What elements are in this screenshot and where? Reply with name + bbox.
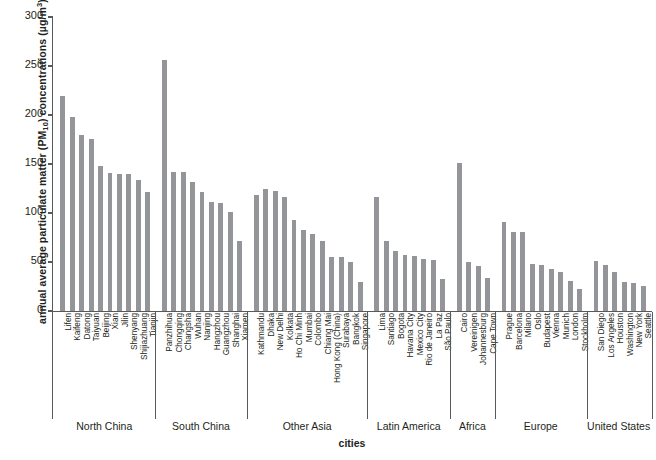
y-axis-tick-label: 300: [11, 9, 43, 21]
bar: [558, 272, 563, 311]
x-axis-category-label: Xiamen: [242, 313, 250, 341]
x-axis-category-label: Barcelona: [516, 313, 524, 350]
bar: [171, 172, 176, 311]
x-axis-category-label: Munich: [563, 313, 571, 339]
x-axis-category-label: Mumbai: [306, 313, 314, 342]
x-axis-category-label: Johannesburg: [480, 313, 488, 365]
group-separator: [367, 312, 368, 419]
bar: [89, 139, 94, 311]
bar: [502, 222, 507, 311]
x-axis-category-label: New York: [636, 313, 644, 348]
x-axis-category-label: New Delhi: [277, 313, 285, 350]
y-axis-title-sub: 10: [41, 122, 50, 131]
x-axis-category-labels: LifenKaifengDatongTaiyuanBeijingXianJili…: [52, 313, 652, 408]
group-separator: [587, 312, 588, 419]
x-axis-category-label: Oslo: [535, 313, 543, 330]
group-separator: [247, 312, 248, 419]
x-axis-category-label: Shenyang: [131, 313, 139, 350]
x-axis-category-label: London: [572, 313, 580, 340]
bar: [70, 117, 75, 311]
bar: [612, 272, 617, 311]
bar: [539, 265, 544, 311]
bar: [431, 260, 436, 311]
group-separator: [652, 312, 653, 419]
bar: [320, 241, 325, 311]
x-axis-category-label: Bogota: [398, 313, 406, 339]
x-axis-category-label: Surabaya: [343, 313, 351, 348]
bar: [254, 195, 259, 311]
x-axis-category-label: Prague: [506, 313, 514, 339]
bar: [162, 60, 167, 311]
bar: [358, 282, 363, 311]
x-axis-category-label: Datong: [84, 313, 92, 339]
y-axis-tick-label: 150: [11, 156, 43, 168]
x-axis-category-label: Hong Kong (China): [334, 313, 342, 383]
x-axis-category-label: Taiyuan: [93, 313, 101, 341]
bar: [60, 96, 65, 311]
x-axis-category-label: Houston: [617, 313, 625, 344]
bar: [421, 259, 426, 311]
group-separator: [450, 312, 451, 419]
bar: [348, 262, 353, 311]
group-labels: North ChinaSouth ChinaOther AsiaLatin Am…: [52, 420, 652, 436]
x-axis-category-label: Shanghai: [233, 313, 241, 348]
bar: [339, 257, 344, 311]
bar: [228, 212, 233, 311]
bar: [282, 197, 287, 311]
x-axis-category-label: Colombo: [315, 313, 323, 346]
bar: [209, 202, 214, 311]
bar: [466, 262, 471, 311]
y-axis-tick-label: 100: [11, 205, 43, 217]
x-axis-category-label: Budapest: [544, 313, 552, 348]
x-axis-category-label: Kolkata: [287, 313, 295, 340]
x-axis-category-label: Panzhihua: [166, 313, 174, 352]
x-axis-category-label: Beijing: [103, 313, 111, 338]
y-axis-tick-label: 0: [11, 303, 43, 315]
bar: [136, 180, 141, 311]
x-axis-category-label: La Paz: [436, 313, 444, 339]
x-axis-category-label: Mexico City: [417, 313, 425, 355]
bar: [631, 283, 636, 311]
x-axis-title: cities: [52, 437, 652, 449]
bar: [520, 232, 525, 311]
x-axis-category-label: Lima: [379, 313, 387, 331]
x-axis-category-label: Nanjing: [204, 313, 212, 341]
bar: [530, 264, 535, 311]
group-separator: [52, 312, 53, 419]
x-axis-category-label: Chongqing: [176, 313, 184, 353]
bar: [403, 255, 408, 311]
x-axis-category-label: Cairo: [461, 313, 469, 333]
bar: [485, 278, 490, 311]
x-axis-category-label: São Paulo: [445, 313, 453, 351]
bar: [568, 281, 573, 311]
bar: [384, 241, 389, 311]
bar: [622, 282, 627, 311]
bar: [310, 234, 315, 311]
group-separator: [495, 312, 496, 419]
y-axis-tick-label: 250: [11, 58, 43, 70]
bar: [603, 265, 608, 311]
x-axis-category-label: Wuhan: [195, 313, 203, 339]
x-axis-category-label: Stockholm: [582, 313, 590, 351]
bar: [457, 163, 462, 311]
x-axis-category-label: Havana City: [407, 313, 415, 358]
bar: [329, 257, 334, 311]
x-axis-category-label: Vereinigen: [471, 313, 479, 352]
bar: [181, 172, 186, 311]
bar: [511, 232, 516, 311]
x-axis-category-label: Singapore: [362, 313, 370, 350]
x-axis-category-label: Kathmandu: [258, 313, 266, 355]
x-axis-category-label: Washington: [627, 313, 635, 356]
x-axis-category-label: Hangzhou: [214, 313, 222, 350]
bar: [237, 241, 242, 311]
x-axis-category-label: Cape Town: [490, 313, 498, 354]
bar: [190, 182, 195, 311]
x-axis-category-label: Bangkok: [353, 313, 361, 345]
y-axis-tick-label: 200: [11, 107, 43, 119]
x-axis-category-label: Chiang Mai: [325, 313, 333, 354]
bar: [273, 191, 278, 311]
bar-series: [53, 17, 653, 311]
x-axis-category-label: Shijiazhuang: [141, 313, 149, 360]
x-axis-category-label: Los Angeles: [608, 313, 616, 358]
bar: [263, 189, 268, 311]
